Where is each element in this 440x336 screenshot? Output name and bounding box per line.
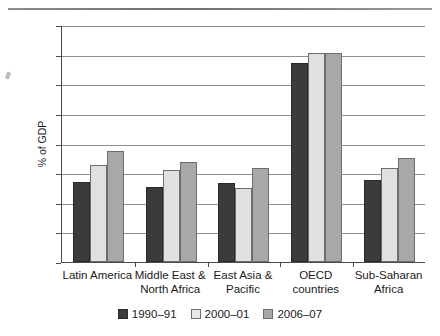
legend-swatch-icon bbox=[191, 309, 201, 319]
y-axis-tick-mark bbox=[56, 85, 61, 86]
category-label-line: countries bbox=[279, 282, 352, 296]
legend-label: 2006–07 bbox=[277, 308, 322, 320]
x-axis-category-label: East Asia &Pacific bbox=[207, 268, 280, 296]
y-axis-tick-mark bbox=[56, 174, 61, 175]
y-axis-tick-mark bbox=[56, 233, 61, 234]
x-axis-category-label: Middle East &North Africa bbox=[134, 268, 207, 296]
x-axis-category-label: Sub-SaharanAfrica bbox=[352, 268, 425, 296]
legend-swatch-icon bbox=[263, 309, 273, 319]
category-label-line: Latin America bbox=[61, 268, 134, 282]
category-label-line: OECD bbox=[279, 268, 352, 282]
chart-legend: 1990–912000–012006–07 bbox=[0, 308, 440, 320]
y-axis-tick-mark bbox=[56, 115, 61, 116]
category-label-line: Pacific bbox=[207, 282, 280, 296]
category-label-line: Africa bbox=[352, 282, 425, 296]
y-axis-tick-mark bbox=[56, 263, 61, 264]
y-axis-tick-mark bbox=[56, 204, 61, 205]
category-label-line: East Asia & bbox=[207, 268, 280, 282]
legend-swatch-icon bbox=[118, 309, 128, 319]
x-axis-category-label: OECDcountries bbox=[279, 268, 352, 296]
category-label-line: Sub-Saharan bbox=[352, 268, 425, 282]
legend-label: 1990–91 bbox=[132, 308, 177, 320]
legend-item: 2006–07 bbox=[263, 308, 322, 320]
legend-item: 2000–01 bbox=[191, 308, 250, 320]
x-axis-category-label: Latin America bbox=[61, 268, 134, 282]
y-axis-tick-mark bbox=[56, 26, 61, 27]
category-label-line: North Africa bbox=[134, 282, 207, 296]
legend-item: 1990–91 bbox=[118, 308, 177, 320]
legend-label: 2000–01 bbox=[205, 308, 250, 320]
y-axis-tick-mark bbox=[56, 56, 61, 57]
y-axis-tick-mark bbox=[56, 145, 61, 146]
category-label-line: Middle East & bbox=[134, 268, 207, 282]
